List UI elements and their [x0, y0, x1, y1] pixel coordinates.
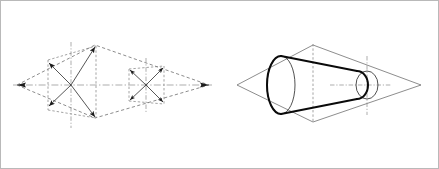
left-rhombus-outline	[17, 45, 209, 118]
left-large-cross-arrows	[49, 47, 95, 117]
figure-left-group	[13, 42, 213, 128]
technical-drawing-canvas	[0, 0, 439, 169]
drawing-page	[0, 0, 439, 169]
right-rhombus-outline	[237, 45, 421, 122]
figure-right-group	[237, 44, 421, 123]
